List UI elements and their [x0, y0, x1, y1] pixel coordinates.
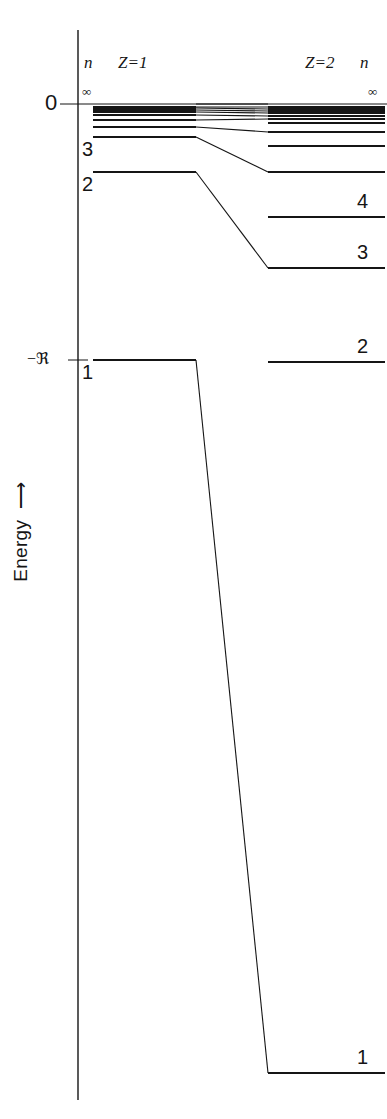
right-column-charge-label: Z=2	[305, 54, 334, 71]
correlation-line-4	[196, 112, 268, 113]
correlation-line-7	[196, 127, 268, 132]
level-label-z1-n2: 2	[82, 174, 93, 194]
axis-tick-rydberg: −ℜ	[27, 351, 49, 367]
right-column-n-header: n	[360, 54, 369, 71]
level-label-z1-n1: 1	[82, 362, 93, 382]
level-label-z2-n1: 1	[357, 1047, 368, 1067]
correlation-line-5	[196, 115, 268, 116]
level-label-z1-n3: 3	[82, 139, 93, 159]
left-column-n-header: n	[84, 54, 93, 71]
correlation-line-6	[196, 119, 268, 120]
correlation-line-8	[196, 137, 268, 172]
axis-title-energy: Energy ⟶	[9, 472, 32, 592]
correlation-line-3	[196, 110, 268, 111]
left-column-charge-label: Z=1	[118, 54, 147, 71]
axis-title-text: Energy	[10, 520, 31, 582]
level-label-z2-n4: 4	[357, 191, 368, 211]
up-arrow-icon: ⟶	[10, 481, 31, 514]
correlation-line-10	[196, 360, 268, 1073]
correlation-line-9	[196, 172, 268, 268]
correlation-lines-group	[196, 104, 268, 1073]
energy-level-diagram: n Z=1 Z=2 n 0 −ℜ Energy ⟶ ∞321∞4321	[0, 0, 387, 1119]
correlation-line-2	[196, 108, 268, 109]
level-label-z2-n∞: ∞	[368, 85, 377, 98]
level-lines-group	[93, 104, 385, 1073]
diagram-canvas	[0, 0, 387, 1119]
level-label-z1-n∞: ∞	[82, 85, 91, 98]
level-label-z2-n3: 3	[357, 242, 368, 262]
axis-tick-zero: 0	[45, 92, 57, 114]
level-label-z2-n2: 2	[357, 336, 368, 356]
